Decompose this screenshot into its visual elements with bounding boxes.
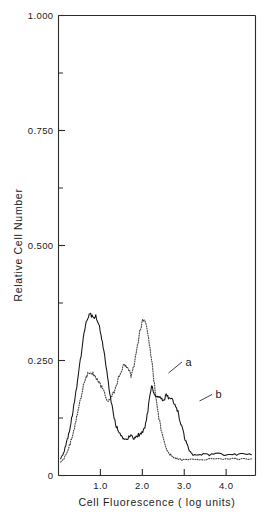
- flow-cytometry-histogram: 00.2500.5000.7501.000 1.02.03.04.0 a b C…: [0, 0, 267, 519]
- x-tick-label: 2.0: [135, 480, 149, 491]
- y-tick-label: 1.000: [28, 10, 54, 21]
- curve-series-b: [61, 313, 252, 459]
- x-axis-title: Cell Fluorescence ( log units): [79, 496, 236, 508]
- y-tick-label: 0.500: [28, 240, 54, 251]
- x-axis-tick-labels: 1.02.03.04.0: [93, 480, 233, 491]
- y-axis-title: Relative Cell Number: [12, 188, 24, 301]
- y-tick-label: 0: [48, 470, 54, 481]
- x-tick-label: 1.0: [93, 480, 107, 491]
- y-tick-label: 0.250: [28, 355, 54, 366]
- y-axis-tick-labels: 00.2500.5000.7501.000: [28, 10, 54, 481]
- y-tick-label: 0.750: [28, 125, 54, 136]
- curve-series-a: [61, 319, 252, 462]
- series-label-b: b: [216, 388, 222, 400]
- data-curves: [61, 313, 252, 462]
- x-tick-label: 3.0: [177, 480, 191, 491]
- annotation-leaders: [169, 362, 213, 401]
- leader-line-a: [169, 362, 183, 373]
- leader-line-b: [200, 395, 213, 402]
- annotation-labels: a b: [186, 356, 222, 401]
- x-tick-label: 4.0: [219, 480, 233, 491]
- y-axis-ticks: [59, 16, 66, 476]
- x-axis-ticks: [100, 469, 226, 476]
- figure-container: 00.2500.5000.7501.000 1.02.03.04.0 a b C…: [0, 0, 267, 519]
- series-label-a: a: [186, 356, 193, 368]
